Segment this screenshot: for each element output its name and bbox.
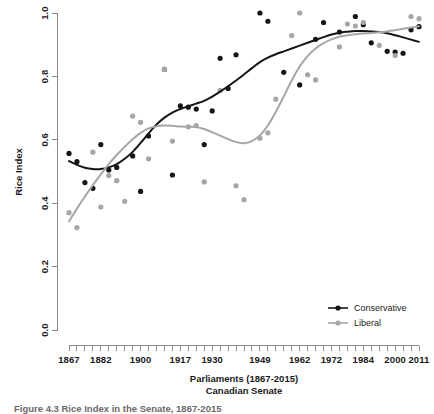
data-point-conservative [257,10,262,15]
data-point-liberal [130,113,135,118]
data-point-liberal [162,67,167,72]
data-point-liberal [66,210,71,215]
x-tick-group [69,346,419,352]
data-point-liberal [114,178,119,183]
smoother-curve-liberal [69,26,419,221]
figure-caption: Figure 4.3 Rice Index in the Senate, 186… [14,403,222,414]
y-tick-label: 1.0 [39,6,50,20]
data-point-conservative [400,51,405,56]
data-point-conservative [385,49,390,54]
data-point-conservative [210,108,215,113]
data-point-conservative [82,180,87,185]
data-point-conservative [353,14,358,19]
y-tick-label: 0.0 [39,323,50,337]
data-point-conservative [265,19,270,24]
figure-container: 0.00.20.40.60.81.0 Rice Index 1867188219… [0,0,434,414]
data-point-conservative [170,172,175,177]
y-tick-label: 0.2 [39,260,50,274]
x-tick-label: 1930 [201,354,223,365]
y-tick-group [52,13,58,330]
data-point-liberal [122,199,127,204]
legend-label-liberal: Liberal [354,318,381,328]
legend-label-conservative: Conservative [354,303,407,313]
legend-marker-conservative [335,305,340,310]
data-point-liberal [377,43,382,48]
data-point-liberal [353,23,358,28]
y-tick-label-group: 0.00.20.40.60.81.0 [39,6,50,337]
data-point-liberal [202,179,207,184]
x-tick-label: 1900 [130,354,152,365]
data-point-liberal [408,14,413,19]
data-point-liberal [74,225,79,230]
data-point-conservative [218,56,223,61]
x-axis-title: Parliaments (1867-2015) [190,373,298,384]
data-point-liberal [241,197,246,202]
data-point-liberal [416,16,421,21]
data-point-conservative [233,52,238,57]
y-tick-label: 0.4 [39,196,50,210]
data-point-liberal [305,72,310,77]
data-point-liberal [90,150,95,155]
y-tick-label: 0.6 [39,133,50,147]
data-point-conservative [281,70,286,75]
data-point-liberal [289,33,294,38]
data-point-conservative [98,142,103,147]
data-point-liberal [313,77,318,82]
x-axis-subtitle: Canadian Senate [206,385,283,396]
data-point-liberal [138,120,143,125]
legend-marker-liberal [335,320,340,325]
data-point-conservative [194,106,199,111]
data-point-liberal [337,44,342,49]
y-axis: 0.00.20.40.60.81.0 Rice Index [13,6,58,337]
data-point-liberal [146,156,151,161]
x-tick-label: 1949 [249,354,271,365]
chart-legend: ConservativeLiberal [328,303,407,328]
data-point-conservative [321,20,326,25]
x-tick-label: 1867 [58,354,80,365]
data-point-conservative [66,151,71,156]
y-axis-title: Rice Index [13,148,24,196]
x-tick-label: 1882 [90,354,112,365]
data-point-conservative [202,142,207,147]
x-tick-label: 1984 [353,354,375,365]
data-point-liberal [273,97,278,102]
data-point-conservative [297,82,302,87]
data-point-conservative [369,40,374,45]
data-point-liberal [170,138,175,143]
data-point-liberal [233,183,238,188]
data-point-liberal [265,130,270,135]
data-point-conservative [138,189,143,194]
data-point-liberal [393,53,398,58]
data-point-liberal [361,20,366,25]
data-points-layer [66,10,421,230]
x-axis: 1867188219001917193019491962197219842000… [58,346,430,397]
x-tick-label: 2000 [384,354,406,365]
x-tick-label: 2011 [408,354,430,365]
data-point-liberal [297,10,302,15]
x-tick-label: 1917 [170,354,192,365]
data-point-liberal [98,204,103,209]
rice-index-scatter-chart: 0.00.20.40.60.81.0 Rice Index 1867188219… [0,0,434,414]
x-tick-label-group: 1867188219001917193019491962197219842000… [58,354,430,365]
smoother-curves-layer [69,26,419,221]
y-tick-label: 0.8 [39,70,50,84]
x-tick-label: 1972 [321,354,343,365]
smoother-curve-conservative [69,31,419,169]
data-point-liberal [106,173,111,178]
x-tick-label: 1962 [289,354,311,365]
data-point-liberal [345,21,350,26]
